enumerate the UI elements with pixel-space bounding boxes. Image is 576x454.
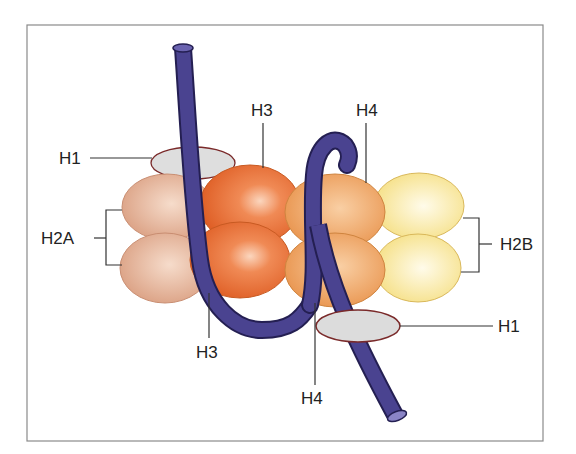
label-h2b: H2B — [500, 235, 533, 254]
histone-h2b-top — [374, 173, 464, 239]
label-h4-bottom: H4 — [301, 389, 323, 408]
dna-end-top — [173, 44, 193, 52]
label-h1-bottom: H1 — [498, 317, 520, 336]
label-h3-bottom: H3 — [196, 343, 218, 362]
label-h4-top: H4 — [356, 101, 378, 120]
histone-h1-bottom — [316, 310, 400, 342]
label-h1-top: H1 — [59, 149, 81, 168]
histone-h2b-bottom — [375, 234, 461, 302]
label-h2a: H2A — [41, 229, 75, 248]
label-h3-top: H3 — [251, 101, 273, 120]
nucleosome-diagram: H1 H3 H4 H2A H2B H3 H1 H4 — [0, 0, 576, 454]
